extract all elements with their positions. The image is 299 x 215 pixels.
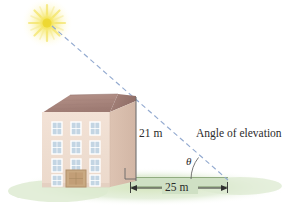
window: [71, 122, 81, 135]
window: [71, 141, 81, 154]
window: [90, 175, 100, 186]
height-label: 21 m: [139, 128, 162, 140]
building-side-wall: [110, 101, 136, 187]
base-label: 25 m: [165, 182, 188, 194]
window: [90, 141, 100, 154]
window: [90, 122, 100, 135]
window: [52, 141, 62, 154]
building-group: [42, 94, 136, 188]
window: [90, 159, 100, 172]
window: [52, 175, 62, 186]
door: [66, 170, 86, 187]
sun-core-inner: [43, 19, 52, 28]
window: [52, 159, 62, 172]
window: [52, 122, 62, 135]
theta-label: θ: [186, 156, 191, 167]
angle-of-elevation-figure: 21 m 25 m Angle of elevation θ: [0, 0, 299, 215]
sun-group: [21, 0, 73, 49]
angle-of-elevation-label: Angle of elevation: [196, 128, 282, 140]
figure-canvas: [0, 0, 299, 215]
